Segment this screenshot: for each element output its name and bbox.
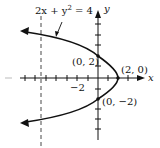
point-label-0-2: (0, 2)	[72, 57, 99, 67]
equation-pointer-arrow-icon	[55, 31, 59, 37]
equation-label: 2x + y2 = 4	[35, 6, 93, 16]
x-tick-label-neg2: −2	[70, 83, 85, 93]
upper-arrowhead-icon	[20, 27, 29, 35]
lower-arrowhead-icon	[20, 119, 29, 127]
y-axis-label: y	[104, 4, 110, 14]
point-label-2-0: (2, 0)	[121, 65, 148, 75]
x-axis-label: x	[148, 73, 154, 83]
point-0-neg2	[96, 97, 100, 101]
parabola-diagram: 2x + y2 = 4 y x −2 (0, 2) (2, 0) (0, −2)	[0, 0, 160, 148]
y-axis-arrow-icon	[95, 10, 101, 18]
point-2-0	[116, 76, 120, 80]
x-axis-arrow-icon	[137, 75, 145, 81]
point-label-0-neg2: (0, −2)	[102, 97, 137, 107]
parabola-curve	[26, 32, 118, 122]
